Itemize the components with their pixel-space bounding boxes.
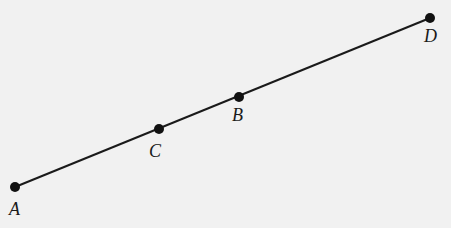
diagram-canvas: A C B D: [0, 0, 451, 228]
point-b: [234, 92, 244, 102]
point-c: [154, 124, 164, 134]
line-segment-ad: [15, 18, 430, 187]
label-b: B: [232, 106, 243, 124]
point-a: [10, 182, 20, 192]
label-a: A: [9, 200, 20, 218]
point-d: [425, 13, 435, 23]
label-c: C: [149, 142, 161, 160]
label-d: D: [424, 27, 437, 45]
segment-figure: [0, 0, 451, 228]
